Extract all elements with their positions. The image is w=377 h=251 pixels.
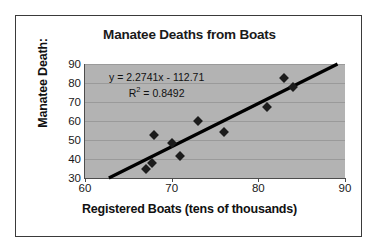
r-squared-number: = 0.8492 [140,87,184,99]
regression-equation: y = 2.2741x - 112.71 [109,70,204,85]
y-tick-label: 80 [68,77,81,89]
x-tick-label: 60 [79,182,92,194]
regression-annotation: y = 2.2741x - 112.71 R2 = 0.8492 [109,70,204,101]
chart-title: Manatee Deaths from Boats [16,27,363,42]
x-tick-label: 80 [252,182,265,194]
y-axis-title: Manatee Death: [36,18,50,148]
y-tick-label: 40 [68,153,81,165]
chart-container: Manatee Deaths from Boats Manatee Death:… [15,15,362,237]
plot-area: 30405060708090 60708090 y = 2.2741x - 11… [84,64,345,179]
y-tick-label: 90 [68,58,81,70]
x-tick-label: 70 [165,182,178,194]
r-squared-value: R2 = 0.8492 [109,85,204,101]
y-tick-label: 50 [68,134,81,146]
y-tick-label: 70 [68,96,81,108]
x-tick-label: 90 [339,182,352,194]
y-tick-label: 60 [68,115,81,127]
x-axis-title: Registered Boats (tens of thousands) [16,202,363,216]
